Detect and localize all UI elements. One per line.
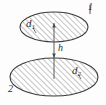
- label-lower-disc-index: 2: [8, 84, 13, 94]
- label-d1-subscript: 1: [32, 23, 35, 30]
- label-d1-base: d: [26, 17, 32, 29]
- label-d2-base: d: [72, 64, 78, 76]
- figure-container: d1 d2 h 1 2: [0, 0, 106, 105]
- label-separation-height: h: [58, 43, 63, 53]
- label-upper-disc-index: 1: [88, 2, 93, 12]
- label-d2-subscript: 2: [78, 70, 81, 77]
- label-lower-disc-diameter: d2: [72, 65, 81, 78]
- label-upper-disc-diameter: d1: [26, 18, 35, 31]
- two-disc-diagram-svg: [0, 0, 106, 105]
